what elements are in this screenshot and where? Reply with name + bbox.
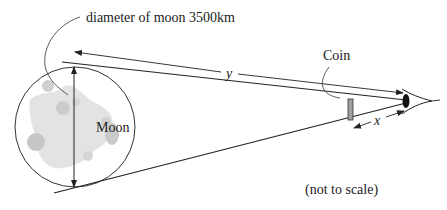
coin-leader-line [322,67,340,98]
coin [348,99,353,120]
y-arrow-left [75,52,221,72]
moon-crater [72,98,80,106]
moon-crater [27,133,45,151]
moon-crater [56,101,70,115]
moon-crater [83,151,93,161]
x-arrow-right [386,111,404,117]
not-to-scale-note: (not to scale) [305,182,378,198]
diameter-label: diameter of moon 3500km [86,10,235,25]
x-label: x [373,113,381,128]
coin-label: Coin [323,48,350,63]
eye-icon [402,89,440,114]
moon-label: Moon [96,120,129,135]
x-arrow-left [354,122,371,128]
moon-coin-diagram: y Coin x diameter of moon 3500km Moon (n… [0,0,447,210]
moon-crater [42,80,54,92]
y-label: y [224,66,233,81]
